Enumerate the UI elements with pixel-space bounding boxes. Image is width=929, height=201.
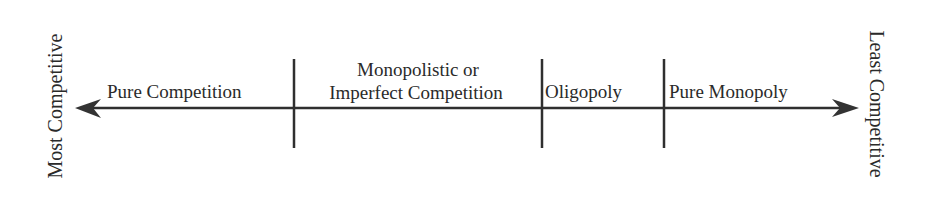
segment-pure-competition: Pure Competition	[107, 82, 242, 102]
segment-monopolistic-line1: Monopolistic or	[300, 60, 536, 80]
left-end-label: Most Competitive	[44, 34, 66, 179]
segment-pure-monopoly: Pure Monopoly	[669, 82, 788, 102]
segment-monopolistic-line2: Imperfect Competition	[296, 83, 536, 103]
segment-oligopoly: Oligopoly	[545, 82, 622, 102]
right-end-label: Least Competitive	[866, 30, 888, 177]
